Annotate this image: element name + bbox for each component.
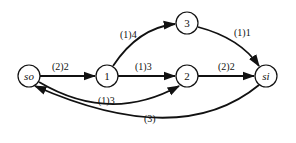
node-label: 2 bbox=[184, 70, 190, 82]
edge-label: (1)3 bbox=[135, 61, 152, 73]
node-si: si bbox=[255, 65, 277, 87]
edge-2-si: (2)2 bbox=[198, 61, 254, 76]
flow-network-diagram: (2)2 (1)4 (1)3 (1)3 (1)1 (2)2 (3) bbox=[0, 0, 296, 143]
edge-label: (1)1 bbox=[234, 27, 251, 39]
edge-label: (2)2 bbox=[218, 61, 235, 73]
node-so: so bbox=[18, 65, 40, 87]
node-3: 3 bbox=[176, 12, 198, 34]
node-label: 3 bbox=[184, 17, 190, 29]
edge-1-3: (1)4 bbox=[113, 24, 175, 66]
edge-label: (2)2 bbox=[52, 61, 69, 73]
edge-si-so: (3) bbox=[35, 85, 259, 125]
node-label: so bbox=[24, 70, 34, 82]
node-label: 1 bbox=[104, 70, 110, 82]
node-1: 1 bbox=[96, 65, 118, 87]
node-label: si bbox=[262, 70, 269, 82]
node-2: 2 bbox=[176, 65, 198, 87]
edge-label: (3) bbox=[144, 113, 156, 125]
edge-label: (1)3 bbox=[98, 95, 115, 107]
edge-so-1: (2)2 bbox=[40, 61, 95, 76]
edge-1-2: (1)3 bbox=[118, 61, 175, 76]
edge-label: (1)4 bbox=[120, 29, 137, 41]
